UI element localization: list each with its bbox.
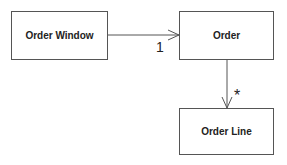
class-name: Order: [213, 30, 240, 41]
multiplicity-label: *: [234, 87, 240, 105]
class-name: Order Line: [201, 126, 252, 137]
class-order[interactable]: Order: [179, 11, 274, 60]
class-name: Order Window: [25, 30, 93, 41]
class-order-window[interactable]: Order Window: [11, 11, 108, 60]
multiplicity-label: 1: [156, 39, 164, 55]
class-order-line[interactable]: Order Line: [179, 108, 274, 155]
